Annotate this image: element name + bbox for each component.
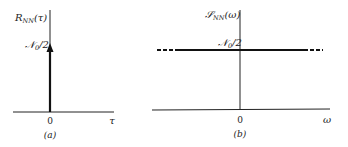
panel-a-xlabel: τ	[109, 115, 115, 126]
impulse-label: 𝒩0/2	[25, 39, 49, 52]
panel-b-power-spectrum: 𝒮NN(ω) 𝒩0/2 0 ω (b)	[152, 9, 331, 139]
panel-a-ylabel: RNN(τ)	[14, 12, 47, 25]
level-label: 𝒩0/2	[218, 37, 242, 50]
white-noise-diagram: RNN(τ) 𝒩0/2 0 τ (a) 𝒮NN(ω) 𝒩0/2 0 ω (b)	[0, 0, 348, 147]
panel-a-autocorrelation: RNN(τ) 𝒩0/2 0 τ (a)	[13, 10, 115, 140]
panel-a-caption: (a)	[44, 130, 57, 140]
panel-b-caption: (b)	[234, 129, 247, 139]
panel-b-xlabel: ω	[323, 114, 331, 125]
panel-b-x-axis	[152, 109, 330, 110]
panel-b-ylabel: 𝒮NN(ω)	[205, 9, 240, 22]
panel-a-origin-tick: 0	[47, 116, 53, 126]
panel-b-origin-tick: 0	[237, 115, 243, 125]
